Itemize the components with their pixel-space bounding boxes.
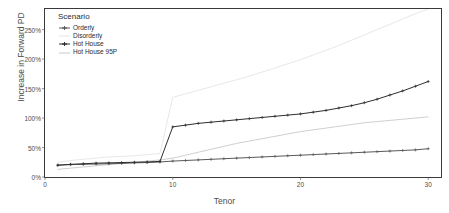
legend-item-disorderly[interactable]: Disorderly	[58, 32, 136, 40]
legend-item-hot-house-95p[interactable]: Hot House 95P	[58, 49, 136, 57]
legend-key-icon	[58, 49, 71, 57]
legend-item-label: Hot House 95P	[73, 49, 117, 56]
series-hot-house-95p	[58, 117, 428, 169]
legend-key-icon	[58, 32, 71, 40]
chart-figure: Increase in Forward PD 0%50%100%150%200%…	[0, 0, 449, 213]
x-axis-title: Tenor	[0, 196, 449, 206]
legend-item-orderly[interactable]: Orderly	[58, 24, 136, 32]
legend-items: OrderlyDisorderlyHot HouseHot House 95P	[58, 24, 136, 57]
x-axis-tick-labels: 0102030	[0, 181, 449, 195]
legend-key-icon	[58, 40, 71, 48]
y-tick-label: 0%	[32, 174, 41, 181]
y-tick-label: 150%	[24, 85, 41, 92]
legend: Scenario OrderlyDisorderlyHot HouseHot H…	[58, 13, 136, 57]
x-tick-label: 20	[297, 181, 304, 188]
legend-item-hot-house[interactable]: Hot House	[58, 40, 136, 48]
y-tick-label: 200%	[24, 56, 41, 63]
legend-item-label: Disorderly	[73, 33, 102, 40]
legend-item-label: Hot House	[73, 41, 104, 48]
legend-title: Scenario	[58, 13, 136, 21]
x-tick-label: 10	[169, 181, 176, 188]
y-tick-label: 100%	[24, 115, 41, 122]
y-tick-label: 250%	[24, 26, 41, 33]
y-tick-label: 50%	[28, 144, 41, 151]
legend-item-label: Orderly	[73, 25, 94, 32]
series-hot-house	[56, 80, 429, 167]
legend-key-icon	[58, 24, 71, 32]
x-tick-label: 30	[425, 181, 432, 188]
x-tick-label: 0	[43, 181, 47, 188]
